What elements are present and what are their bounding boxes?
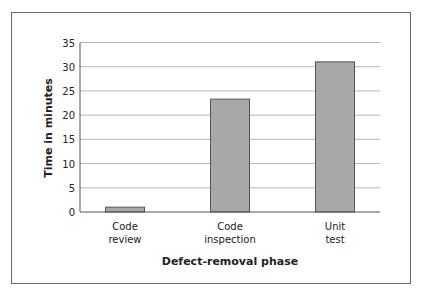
x-tick-label: inspection (204, 234, 255, 245)
y-tick-label: 10 (62, 159, 75, 170)
x-tick-label: Unit (325, 221, 345, 232)
x-tick-label: test (325, 234, 344, 245)
y-tick-label: 25 (62, 86, 75, 97)
bar (316, 62, 355, 212)
y-tick-label: 30 (62, 62, 75, 73)
bar-chart: 05101520253035 CodereviewCodeinspectionU… (0, 0, 422, 298)
y-tick-label: 20 (62, 110, 75, 121)
bar (106, 207, 145, 212)
y-tick-label: 35 (62, 38, 75, 49)
y-tick-label: 15 (62, 134, 75, 145)
bars (106, 62, 355, 212)
x-axis-label: Defect-removal phase (162, 255, 298, 268)
y-axis-ticks: 05101520253035 (62, 38, 75, 219)
y-axis-label: Time in minutes (42, 78, 55, 178)
y-tick-label: 0 (69, 207, 75, 218)
y-tick-label: 5 (69, 183, 75, 194)
x-axis-tick-labels: CodereviewCodeinspectionUnittest (108, 221, 345, 245)
x-tick-label: Code (112, 221, 138, 232)
x-tick-label: Code (217, 221, 243, 232)
bar (211, 99, 250, 212)
x-tick-label: review (108, 234, 141, 245)
